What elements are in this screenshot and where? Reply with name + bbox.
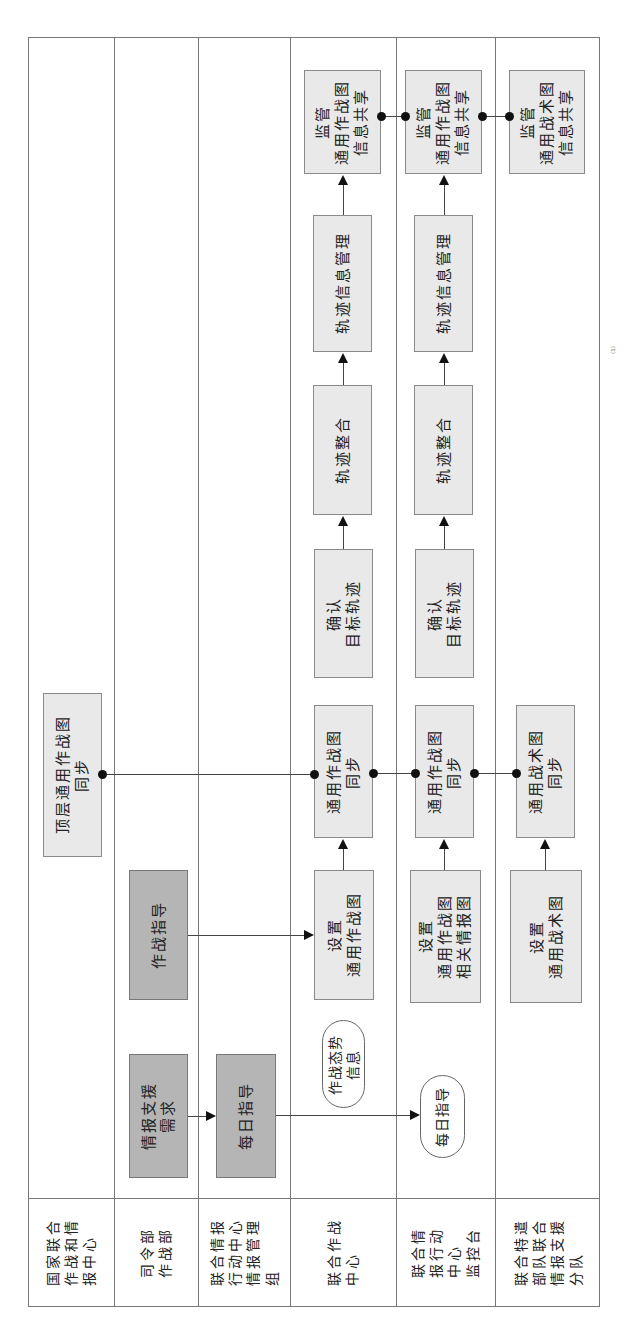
node-jtf-ctp-sync: 通用战术图 同步 <box>516 705 575 838</box>
arrow-daily-to-oval <box>276 1115 412 1116</box>
node-jtf-monitor-ctp-share: 监管 通用战术图 信息共享 <box>509 70 585 174</box>
node-jocc-setup-cop: 设置 通用作战图 <box>314 870 374 1000</box>
arrow-up-icon <box>338 516 348 526</box>
connector-dot-icon <box>98 770 107 779</box>
node-jioc-track-info-mgmt: 轨迹信息管理 <box>414 215 473 352</box>
arrow-setup-to-sync-jocc <box>343 848 344 870</box>
arrow-mgmt-to-monitor-jioc <box>444 184 445 215</box>
node-jocc-cop-sync: 通用作战图 同步 <box>314 705 373 838</box>
arrow-integration-to-mgmt-jioc <box>444 362 445 385</box>
lane-header-joint-ops-center: 联合作战 中心 <box>290 1198 396 1307</box>
node-jocc-confirm-track: 确认 目标轨迹 <box>314 549 373 678</box>
connector-dot-icon <box>470 769 479 778</box>
lane-divider <box>290 37 291 1307</box>
arrow-right-icon <box>410 1110 420 1120</box>
lane-header-hq-operations: 司令部 作战部 <box>114 1198 198 1307</box>
node-top-cop-sync: 顶层通用作战图 同步 <box>43 693 102 857</box>
node-jioc-monitor-cop-share: 监管 通用作战图 信息共享 <box>405 70 482 174</box>
arrow-up-icon <box>439 516 449 526</box>
arrow-up-icon <box>338 839 348 849</box>
arrow-confirm-to-integration-jioc <box>444 525 445 549</box>
connector-dot-icon <box>310 770 319 779</box>
connector-dot-icon <box>401 112 410 121</box>
lane-header-jioc-watch-desk: 联合情 报行动 中心 监控台 <box>396 1198 495 1307</box>
arrow-setup-to-sync-jtf <box>545 848 546 870</box>
node-jtf-setup-ctp: 设置 通用战术图 <box>510 870 582 1003</box>
connector-dot-icon <box>411 769 420 778</box>
arrow-up-icon <box>439 353 449 363</box>
node-jioc-cop-sync: 通用作战图 同步 <box>415 705 474 838</box>
arrow-req-to-daily <box>188 1116 208 1117</box>
lane-divider <box>495 37 496 1307</box>
arrow-setup-to-sync-jioc <box>444 848 445 870</box>
node-daily-guidance: 每日指导 <box>216 1054 276 1178</box>
arrow-right-icon <box>206 1111 216 1121</box>
node-jocc-monitor-cop-share: 监管 通用作战图 信息共享 <box>304 70 381 174</box>
arrow-up-icon <box>540 839 550 849</box>
connector-top-to-jocc-sync <box>102 774 314 775</box>
arrow-up-icon <box>338 353 348 363</box>
node-ops-guidance: 作战指导 <box>129 870 188 1000</box>
connector-dot-icon <box>369 769 378 778</box>
node-jioc-track-integration: 轨迹整合 <box>414 385 473 515</box>
node-jioc-setup-cop-intel: 设置 通用作战图 相关情报图 <box>410 870 481 1003</box>
node-jioc-confirm-track: 确认 目标轨迹 <box>415 549 474 678</box>
connector-jioc-to-jtf-sync <box>474 773 516 774</box>
node-daily-guidance-oval: 每日指导 <box>420 1075 465 1158</box>
node-jocc-track-info-mgmt: 轨迹信息管理 <box>313 215 372 352</box>
node-intel-support-requirement: 情报支援 需求 <box>129 1054 188 1178</box>
arrow-up-icon <box>439 839 449 849</box>
arrow-right-icon <box>304 930 314 940</box>
connector-dot-icon <box>478 112 487 121</box>
arrow-confirm-to-integration-jocc <box>343 525 344 549</box>
node-ops-situation-info: 作战态势 信息 <box>322 1020 365 1108</box>
arrow-up-icon <box>338 175 348 185</box>
arrow-ops-guidance-to-setup <box>188 935 306 936</box>
arrow-up-icon <box>439 175 449 185</box>
lane-divider <box>114 37 115 1307</box>
lane-header-jioc-intel-mgmt: 联合情报 行动中心 情报管理 组 <box>198 1198 290 1307</box>
connector-dot-icon <box>505 112 514 121</box>
arrow-mgmt-to-monitor-jocc <box>343 184 344 215</box>
lane-header-national-joint-ops-intel-center: 国家联合 作战和情 报中心 <box>28 1198 114 1307</box>
node-jocc-track-integration: 轨迹整合 <box>313 385 372 515</box>
arrow-integration-to-mgmt-jocc <box>343 362 344 385</box>
lane-divider <box>396 37 397 1307</box>
connector-dot-icon <box>512 769 521 778</box>
connector-dot-icon <box>377 112 386 121</box>
lane-header-jtf-jisd: 联合特遣 部队联合 情报支援 分队 <box>495 1198 600 1307</box>
page-mark: ⁽¹⁾ <box>610 346 620 354</box>
connector-jocc-to-jioc-sync <box>373 773 415 774</box>
